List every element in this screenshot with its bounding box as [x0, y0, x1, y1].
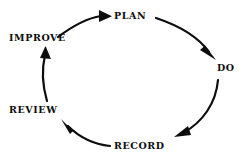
stage-label-plan: PLAN: [114, 10, 146, 21]
stage-label-review: REVIEW: [9, 104, 57, 115]
arrow-review-improve-head: [40, 46, 51, 59]
arrow-improve-plan-head: [99, 10, 112, 22]
arrow-do-record-shaft: [183, 80, 218, 133]
arrow-review-improve-shaft: [43, 55, 47, 101]
arrow-plan-do-head: [200, 46, 216, 61]
arrow-improve-plan: [58, 10, 112, 37]
cycle-diagram: PLAN DO RECORD REVIEW IMPROVE: [0, 0, 246, 159]
arrow-record-review-shaft: [68, 126, 110, 146]
arrow-do-record-head: [174, 126, 191, 137]
stage-label-record: RECORD: [114, 140, 165, 151]
cycle-arrows-canvas: [0, 0, 246, 159]
stage-label-do: DO: [217, 62, 235, 73]
stage-label-improve: IMPROVE: [9, 32, 66, 43]
arrow-plan-do: [156, 18, 216, 60]
arrow-do-record: [174, 80, 218, 137]
arrow-record-review: [61, 119, 110, 146]
arrow-review-improve: [40, 46, 51, 101]
arrow-record-review-head: [61, 119, 73, 134]
arrow-plan-do-shaft: [156, 18, 209, 52]
